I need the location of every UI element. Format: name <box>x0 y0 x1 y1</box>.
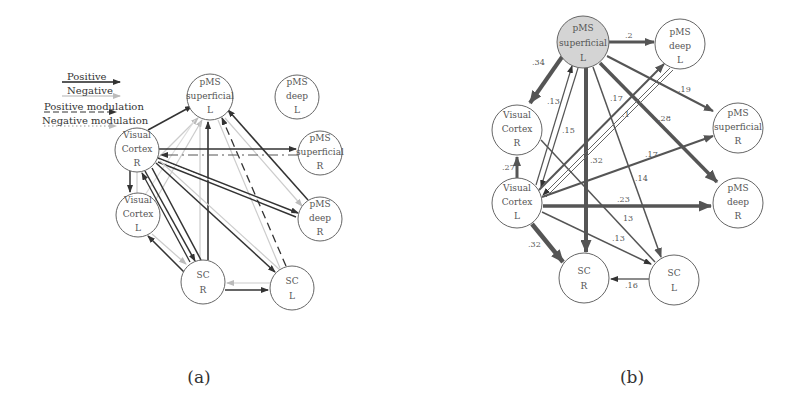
svg-text:SC: SC <box>196 270 209 280</box>
caption-a: (a) <box>187 367 210 387</box>
svg-text:R: R <box>735 211 742 221</box>
svg-text:pMS: pMS <box>669 27 690 37</box>
svg-text:Visual: Visual <box>122 130 151 140</box>
node-b-pms-deep-l: pMS deep L <box>655 19 705 69</box>
svg-text:SC: SC <box>667 268 680 278</box>
svg-text:L: L <box>294 105 300 115</box>
node-a-pms-deep-l: pMS deep L <box>275 75 319 119</box>
svg-text:SC: SC <box>285 276 298 286</box>
svg-text:R: R <box>134 158 141 168</box>
edges-panel-a <box>130 106 308 290</box>
svg-text:deep: deep <box>309 213 331 223</box>
node-a-pms-deep-r: pMS deep R <box>298 197 342 241</box>
svg-text:Visual: Visual <box>502 110 531 120</box>
edges-panel-b <box>517 42 717 279</box>
svg-text:.19: .19 <box>678 85 691 94</box>
panel-b: .2 .34 .19 .28 .13 .15 .17 .1 .32 .14 .1… <box>492 16 763 387</box>
node-a-visual-cortex-l: Visual Cortex L <box>116 193 160 237</box>
svg-text:.16: .16 <box>625 281 638 290</box>
svg-text:pMS: pMS <box>309 199 330 209</box>
svg-text:.13: .13 <box>547 97 560 106</box>
svg-text:.17: .17 <box>610 94 623 103</box>
svg-text:SC: SC <box>577 266 590 276</box>
svg-text:pMS: pMS <box>286 77 307 87</box>
svg-text:.34: .34 <box>532 58 545 67</box>
svg-text:R: R <box>581 281 588 291</box>
svg-text:Cortex: Cortex <box>123 209 154 219</box>
svg-text:.13: .13 <box>612 234 625 243</box>
node-a-pms-superficial-l: pMS superficial L <box>186 74 234 120</box>
svg-text:.15: .15 <box>562 126 575 135</box>
svg-text:deep: deep <box>669 41 691 51</box>
node-b-sc-r: SC R <box>559 253 609 303</box>
svg-text:pMS: pMS <box>572 23 593 33</box>
legend-positive-modulation: Positive modulation <box>44 101 144 112</box>
svg-text:pMS: pMS <box>309 133 330 143</box>
svg-text:Visual: Visual <box>502 183 531 193</box>
node-a-visual-cortex-r: Visual Cortex R <box>115 128 159 172</box>
svg-text:L: L <box>207 105 213 115</box>
node-b-pms-superficial-r: pMS superficial R <box>713 103 763 153</box>
caption-b: (b) <box>620 367 644 387</box>
svg-text:13: 13 <box>623 214 633 223</box>
svg-text:.28: .28 <box>658 114 671 123</box>
svg-text:deep: deep <box>727 197 749 207</box>
svg-text:pMS: pMS <box>727 183 748 193</box>
svg-text:pMS: pMS <box>727 108 748 118</box>
legend-negative: Negative <box>67 85 113 96</box>
node-a-sc-l: SC L <box>270 266 314 310</box>
node-b-visual-cortex-r: Visual Cortex R <box>492 105 542 155</box>
svg-text:.2: .2 <box>625 31 633 40</box>
svg-text:Visual: Visual <box>123 195 152 205</box>
node-b-visual-cortex-l: Visual Cortex L <box>492 178 542 228</box>
svg-text:superficial: superficial <box>559 38 607 48</box>
svg-text:L: L <box>514 211 520 221</box>
svg-text:.23: .23 <box>617 195 630 204</box>
figure-canvas: Positive Negative Positive modulation Ne… <box>0 0 800 406</box>
legend-negative-modulation: Negative modulation <box>42 115 149 126</box>
svg-text:R: R <box>200 285 207 295</box>
svg-text:L: L <box>580 53 586 63</box>
svg-text:L: L <box>135 223 141 233</box>
svg-text:.1: .1 <box>622 110 630 119</box>
panel-a: Positive Negative Positive modulation Ne… <box>42 71 344 387</box>
svg-text:R: R <box>317 227 324 237</box>
svg-text:R: R <box>735 136 742 146</box>
svg-text:L: L <box>677 55 683 65</box>
svg-text:.14: .14 <box>635 174 648 183</box>
node-a-pms-superficial-r: pMS superficial R <box>296 131 344 175</box>
svg-text:deep: deep <box>286 91 308 101</box>
svg-text:.32: .32 <box>528 240 541 249</box>
edge-labels-panel-b: .2 .34 .19 .28 .13 .15 .17 .1 .32 .14 .1… <box>502 31 691 290</box>
svg-text:R: R <box>317 161 324 171</box>
legend: Positive Negative Positive modulation Ne… <box>42 71 149 126</box>
svg-text:superficial: superficial <box>714 122 762 132</box>
svg-text:.17: .17 <box>645 150 658 159</box>
svg-text:pMS: pMS <box>199 77 220 87</box>
svg-text:superficial: superficial <box>186 91 234 101</box>
node-b-pms-superficial-l: pMS superficial L <box>557 16 609 68</box>
node-b-pms-deep-r: pMS deep R <box>713 178 763 228</box>
node-b-sc-l: SC L <box>649 255 699 305</box>
svg-text:Cortex: Cortex <box>502 124 533 134</box>
svg-text:L: L <box>289 291 295 301</box>
svg-text:superficial: superficial <box>296 147 344 157</box>
svg-text:R: R <box>514 138 521 148</box>
svg-text:.32: .32 <box>590 156 603 165</box>
node-a-sc-r: SC R <box>181 260 225 304</box>
svg-text:Cortex: Cortex <box>502 197 533 207</box>
svg-text:L: L <box>671 283 677 293</box>
svg-text:Cortex: Cortex <box>122 144 153 154</box>
legend-positive: Positive <box>67 71 107 82</box>
svg-text:.27: .27 <box>502 163 515 172</box>
